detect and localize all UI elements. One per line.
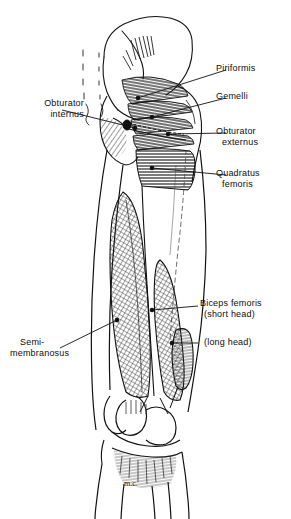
label-semimembranosus: Semi- membranosus bbox=[10, 337, 69, 359]
label-quadratus-femoris: Quadratus femoris bbox=[216, 168, 260, 190]
label-gemelli: Gemelli bbox=[216, 91, 248, 102]
vertebral-dashes bbox=[83, 50, 103, 125]
label-obturator-externus-line1: Obturator bbox=[216, 126, 258, 137]
anatomical-figure: Piriformis Gemelli Obturator externus Qu… bbox=[0, 0, 291, 519]
obturator-externus-muscle bbox=[133, 134, 194, 150]
label-biceps-femoris: Biceps femoris (short head) bbox=[200, 298, 262, 320]
label-quadratus-femoris-line1: Quadratus bbox=[216, 168, 260, 179]
anatomy-illustration bbox=[0, 0, 291, 519]
label-biceps-femoris-line1: Biceps femoris bbox=[200, 298, 262, 309]
label-piriformis: Piriformis bbox=[216, 63, 256, 74]
piriformis-muscle bbox=[122, 77, 188, 104]
artist-signature: m.c. bbox=[124, 479, 138, 488]
label-obturator-externus-line2: externus bbox=[216, 137, 258, 148]
label-biceps-short-head: (short head) bbox=[200, 309, 262, 320]
label-semimembranosus-line1: Semi- bbox=[10, 337, 69, 348]
knee-femoral-condyles bbox=[104, 396, 180, 446]
label-obturator-internus-line1: Obturator bbox=[14, 98, 84, 109]
label-obturator-internus-line2: internus bbox=[14, 109, 84, 120]
semimembranosus-muscle bbox=[110, 192, 150, 397]
label-biceps-long-head: (long head) bbox=[204, 337, 252, 348]
label-quadratus-femoris-line2: femoris bbox=[216, 179, 260, 190]
label-obturator-internus: Obturator internus bbox=[14, 98, 84, 120]
label-semimembranosus-line2: membranosus bbox=[10, 348, 69, 359]
sacrum-hatching bbox=[123, 36, 154, 70]
label-obturator-externus: Obturator externus bbox=[216, 126, 258, 148]
gemelli-muscles bbox=[128, 101, 193, 134]
